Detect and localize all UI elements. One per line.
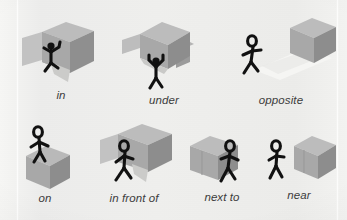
illustration-opposite bbox=[228, 14, 340, 94]
label-opposite: opposite bbox=[259, 94, 303, 106]
illustration-near bbox=[264, 128, 344, 194]
label-in: in bbox=[56, 89, 65, 101]
illustration-on bbox=[18, 122, 94, 198]
label-in-front-of: in front of bbox=[109, 192, 158, 204]
label-on: on bbox=[39, 192, 52, 204]
label-under: under bbox=[149, 94, 179, 106]
illustration-in bbox=[20, 18, 112, 86]
illustration-under bbox=[118, 14, 214, 94]
illustration-next-to bbox=[186, 128, 264, 196]
illustration-in-front-of bbox=[98, 124, 186, 198]
prepositions-figure: in under bbox=[0, 0, 347, 220]
label-next-to: next to bbox=[204, 191, 239, 203]
label-near: near bbox=[287, 189, 310, 201]
